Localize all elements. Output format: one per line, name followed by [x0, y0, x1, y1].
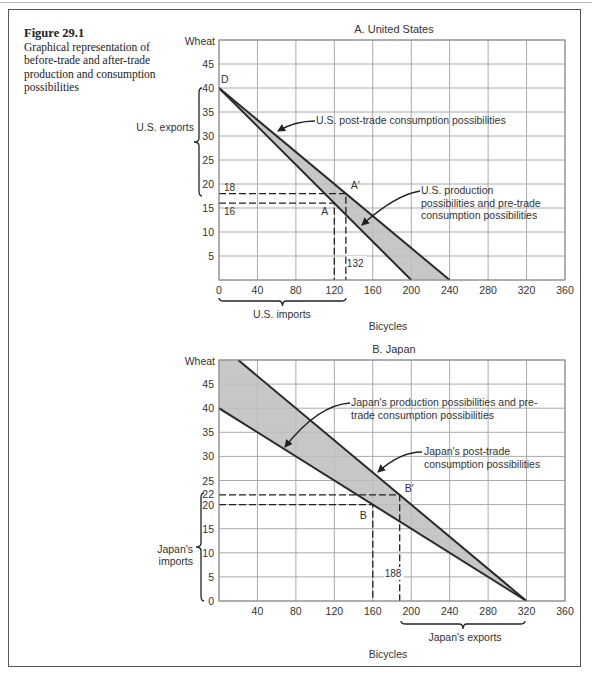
exports-brace-label: U.S. exports	[136, 121, 194, 133]
x-tick-label: 200	[402, 605, 420, 617]
chart-title: A. United States	[354, 23, 434, 35]
arrow-icon	[278, 121, 315, 131]
post-trade-annotation-line: Japan's post-trade	[424, 445, 510, 457]
arrow-icon	[378, 452, 422, 472]
imports-brace-label: imports	[159, 555, 193, 567]
x-tick-label: 280	[479, 605, 497, 617]
guide-label-132: 132	[347, 258, 364, 269]
y-tick-label: 20	[202, 178, 214, 190]
y-tick-label: 10	[202, 547, 214, 559]
point-label-b: B	[360, 509, 367, 521]
trade-charts: A. United StatesWheat0408012016020024028…	[0, 0, 592, 680]
brace-icon	[219, 298, 346, 306]
x-tick-label: 40	[252, 605, 264, 617]
point-label-a: A	[321, 205, 328, 217]
guide-label-22: 22	[202, 488, 214, 500]
ppf-annotation-line: consumption possibilities	[421, 209, 537, 221]
guide-label-16: 16	[224, 206, 236, 217]
point-label-a-prime: A′	[351, 179, 360, 191]
y-tick-label: 30	[202, 130, 214, 142]
y-tick-label: 0	[208, 595, 214, 607]
chart-united-states: A. United StatesWheat0408012016020024028…	[136, 23, 574, 332]
y-tick-label: 10	[202, 226, 214, 238]
x-tick-label: 280	[479, 284, 497, 296]
guide-label-18: 18	[224, 182, 236, 193]
x-tick-label: 320	[518, 284, 536, 296]
x-tick-label: 80	[290, 284, 302, 296]
x-tick-label: 160	[364, 284, 382, 296]
x-tick-label: 80	[290, 605, 302, 617]
y-tick-label: 5	[208, 250, 214, 262]
y-tick-label: 35	[202, 106, 214, 118]
y-tick-label: 45	[202, 58, 214, 70]
guide-label-188: 188	[385, 568, 402, 579]
x-tick-label: 160	[364, 605, 382, 617]
x-tick-label: 240	[441, 605, 459, 617]
x-tick-label: 120	[326, 284, 344, 296]
x-tick-label: 360	[556, 605, 574, 617]
chart-title: B. Japan	[372, 343, 415, 355]
x-tick-label: 360	[556, 284, 574, 296]
brace-icon	[194, 88, 202, 196]
x-tick-label: 320	[518, 605, 536, 617]
y-tick-label: 30	[202, 450, 214, 462]
y-axis-label: Wheat	[185, 355, 215, 367]
exports-brace-label: Japan's exports	[428, 631, 501, 643]
ppf-annotation-line: possibilities and pre-trade	[421, 197, 541, 209]
y-tick-label: 25	[202, 154, 214, 166]
y-tick-label: 35	[202, 426, 214, 438]
x-axis-label: Bicycles	[369, 320, 408, 332]
imports-brace-label: Japan's	[157, 543, 193, 555]
y-tick-label: 45	[202, 378, 214, 390]
y-tick-label: 40	[202, 402, 214, 414]
y-tick-label: 40	[202, 82, 214, 94]
y-tick-label: 20	[202, 499, 214, 511]
ppf-annotation-line: trade consumption possibilities	[351, 409, 494, 421]
y-tick-label: 15	[202, 523, 214, 535]
y-axis-label: Wheat	[185, 35, 215, 47]
guide-line-a	[219, 203, 334, 280]
y-tick-label: 15	[202, 202, 214, 214]
brace-icon	[401, 621, 525, 629]
x-axis-label: Bicycles	[369, 648, 408, 660]
point-label-d: D	[221, 73, 229, 85]
x-tick-label: 200	[402, 284, 420, 296]
imports-brace-label: U.S. imports	[253, 308, 311, 320]
x-tick-label: 240	[441, 284, 459, 296]
x-tick-label: 40	[252, 284, 264, 296]
chart-japan: B. JapanWheat408012016020024028032036005…	[157, 343, 574, 660]
point-label-b-prime: B′	[405, 482, 414, 494]
post-trade-annotation: U.S. post-trade consumption possibilitie…	[316, 114, 506, 126]
post-trade-annotation-line: consumption possibilities	[424, 458, 540, 470]
ppf-annotation-line: U.S. production	[421, 184, 494, 196]
y-tick-label: 25	[202, 475, 214, 487]
y-tick-label: 5	[208, 571, 214, 583]
x-tick-label: 0	[216, 284, 222, 296]
x-tick-label: 120	[326, 605, 344, 617]
ppf-annotation-line: Japan's production possibilities and pre…	[351, 396, 538, 408]
